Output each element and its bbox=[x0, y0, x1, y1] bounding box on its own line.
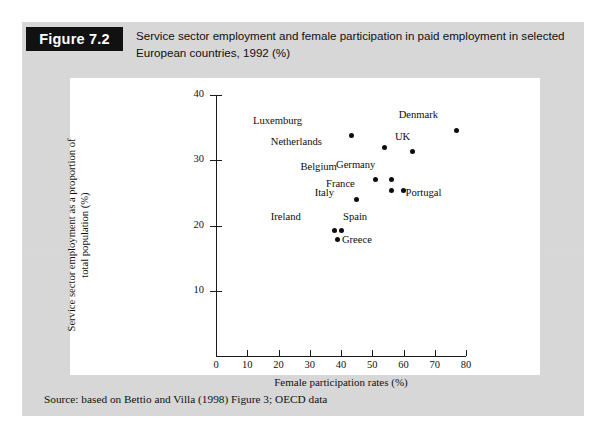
data-point-label: Denmark bbox=[399, 109, 438, 120]
x-tick-label: 30 bbox=[297, 359, 323, 370]
data-point-label: Portugal bbox=[406, 187, 442, 198]
data-point-label: Italy bbox=[315, 187, 334, 198]
x-tick bbox=[247, 350, 248, 356]
y-tick-inner bbox=[217, 226, 222, 227]
data-point-label: Greece bbox=[342, 234, 372, 245]
source-note: Source: based on Bettio and Villa (1998)… bbox=[44, 393, 327, 405]
figure-root: Figure 7.2 Service sector employment and… bbox=[0, 0, 606, 433]
y-tick-inner bbox=[217, 160, 222, 161]
x-tick bbox=[372, 350, 373, 356]
x-tick-label: 70 bbox=[422, 359, 448, 370]
x-tick-label: 0 bbox=[203, 359, 229, 370]
x-tick bbox=[435, 350, 436, 356]
x-tick-label: 20 bbox=[266, 359, 292, 370]
x-axis-line bbox=[216, 356, 466, 357]
data-point bbox=[335, 237, 340, 242]
y-tick-label: 30 bbox=[178, 153, 204, 164]
y-tick bbox=[210, 226, 216, 227]
chart-panel: Female participation rates (%) Service s… bbox=[70, 78, 540, 375]
data-point-label: Spain bbox=[343, 211, 367, 222]
x-tick-label: 50 bbox=[359, 359, 385, 370]
data-point bbox=[389, 177, 394, 182]
data-point-label: Luxemburg bbox=[253, 115, 302, 126]
x-tick bbox=[310, 350, 311, 356]
y-tick-inner bbox=[217, 291, 222, 292]
x-tick bbox=[404, 350, 405, 356]
data-point bbox=[389, 188, 394, 193]
figure-number-tag: Figure 7.2 bbox=[26, 27, 123, 51]
data-point bbox=[373, 177, 378, 182]
y-tick bbox=[210, 291, 216, 292]
y-tick-inner bbox=[217, 95, 222, 96]
x-tick bbox=[466, 350, 467, 356]
data-point-label: UK bbox=[395, 131, 410, 142]
data-point bbox=[349, 133, 354, 138]
x-tick bbox=[341, 350, 342, 356]
scatter-plot: Female participation rates (%) Service s… bbox=[70, 78, 540, 375]
data-point bbox=[354, 197, 359, 202]
x-tick bbox=[279, 350, 280, 356]
x-tick-label: 40 bbox=[328, 359, 354, 370]
data-point bbox=[332, 228, 337, 233]
data-point bbox=[410, 149, 415, 154]
y-axis-label: Service sector employment as a proportio… bbox=[65, 130, 91, 340]
data-point-label: Ireland bbox=[271, 211, 301, 222]
x-tick-label: 60 bbox=[391, 359, 417, 370]
data-point bbox=[339, 228, 344, 233]
x-tick-label: 10 bbox=[234, 359, 260, 370]
data-point-label: Netherlands bbox=[271, 136, 322, 147]
y-tick bbox=[210, 95, 216, 96]
data-point bbox=[454, 128, 459, 133]
y-tick-label: 20 bbox=[178, 219, 204, 230]
data-point bbox=[382, 145, 387, 150]
y-tick-label: 40 bbox=[178, 88, 204, 99]
y-tick-label: 10 bbox=[178, 284, 204, 295]
data-point-label: Belgium bbox=[300, 161, 337, 172]
y-tick bbox=[210, 160, 216, 161]
figure-caption: Service sector employment and female par… bbox=[136, 27, 566, 61]
x-tick-label: 80 bbox=[453, 359, 479, 370]
x-axis-label: Female participation rates (%) bbox=[216, 376, 466, 388]
data-point-label: Germany bbox=[336, 159, 375, 170]
